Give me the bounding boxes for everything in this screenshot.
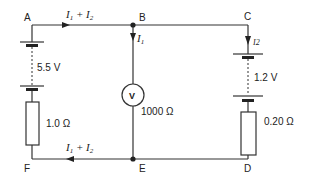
node-label-c: C bbox=[244, 11, 251, 22]
node-label-e: E bbox=[139, 163, 146, 174]
resistor-right bbox=[241, 112, 256, 155]
node-label-d: D bbox=[244, 163, 251, 174]
arrow-down-icon bbox=[245, 36, 251, 45]
voltmeter-symbol: V bbox=[129, 91, 135, 101]
arrow-down-icon bbox=[130, 33, 136, 41]
node-label-a: A bbox=[24, 12, 31, 23]
emf-label-right: 1.2 V bbox=[254, 72, 278, 83]
cell-bottom-plate-left bbox=[20, 86, 44, 91]
resistance-label-right: 0.20 Ω bbox=[264, 116, 294, 127]
node-label-f: F bbox=[24, 163, 30, 174]
cell-bottom-plate-right bbox=[233, 96, 263, 102]
left-branch bbox=[20, 25, 44, 159]
arrow-left-icon bbox=[66, 156, 74, 162]
cell-top-plate-left bbox=[20, 42, 44, 47]
resistor-left bbox=[26, 102, 39, 145]
emf-label-left: 5.5 V bbox=[37, 62, 61, 73]
arrow-right-icon bbox=[62, 22, 70, 28]
current-label-top: I1 + I2 bbox=[65, 8, 94, 22]
circuit-diagram: A B C D E F I1 + I2 I1 + I2 I1 I2 5.5 V … bbox=[0, 0, 313, 180]
junction-dot-b bbox=[130, 22, 135, 27]
cell-top-plate-right bbox=[233, 54, 263, 59]
resistance-label-left: 1.0 Ω bbox=[46, 118, 71, 129]
voltmeter-resistance-label: 1000 Ω bbox=[141, 106, 174, 117]
current-label-b: I1 bbox=[136, 32, 144, 46]
node-label-b: B bbox=[139, 12, 146, 23]
junction-dot-e bbox=[130, 156, 135, 161]
current-label-c: I2 bbox=[252, 38, 260, 47]
current-label-bottom: I1 + I2 bbox=[65, 141, 94, 155]
